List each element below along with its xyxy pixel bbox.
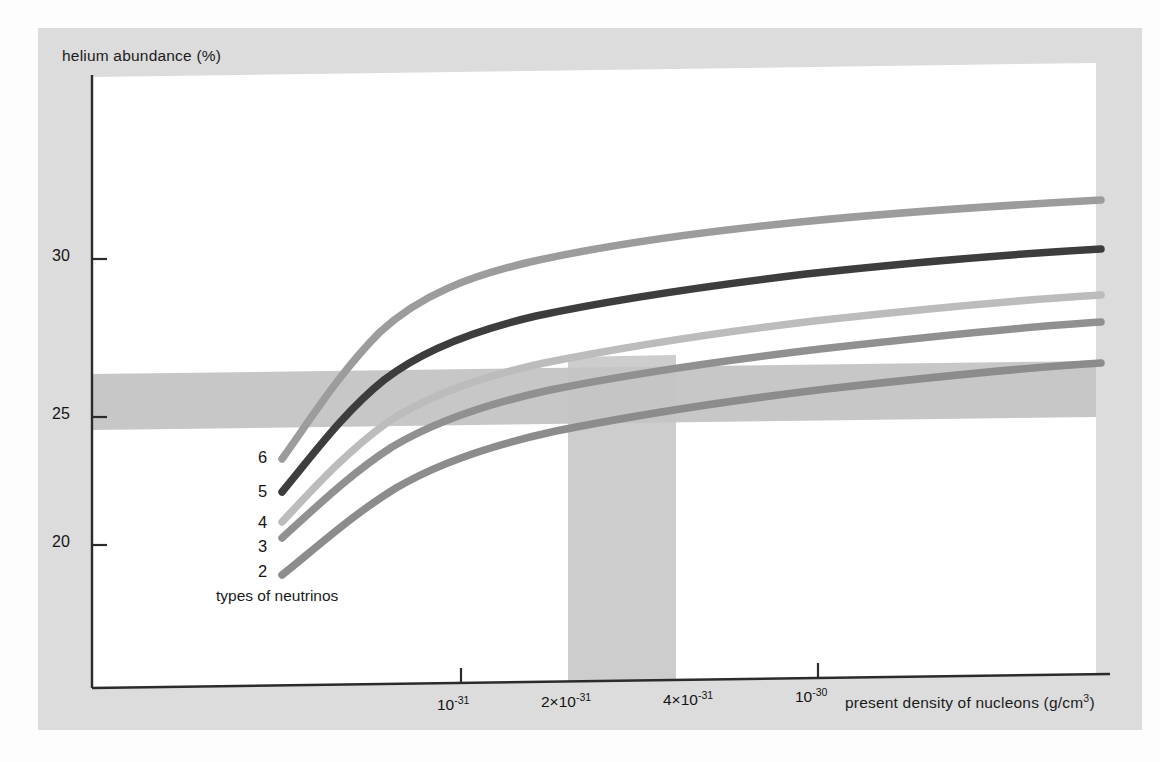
x-tick-label-1e-31: 10-31	[437, 694, 469, 714]
y-tick-label-30: 30	[52, 247, 70, 265]
curve-label-2: 2	[258, 562, 267, 581]
x-tick-mantissa: 4×10	[663, 691, 698, 708]
x-tick-mantissa: 10	[795, 688, 812, 705]
figure-page: helium abundance (%) present density of …	[0, 0, 1160, 762]
curve-label-6: 6	[258, 448, 267, 467]
chart-canvas	[0, 0, 1160, 762]
y-tick-label-20: 20	[52, 533, 70, 551]
x-tick-label-2e-31: 2×10-31	[541, 691, 591, 711]
y-tick-label-25: 25	[52, 405, 70, 423]
x-tick-exponent: -31	[698, 689, 713, 701]
x-axis-label-tail: )	[1089, 694, 1094, 711]
legend-caption: types of neutrinos	[216, 587, 338, 605]
x-tick-exponent: -30	[812, 686, 827, 698]
x-tick-label-4e-31: 4×10-31	[663, 689, 713, 709]
x-axis-label: present density of nucleons (g/cm3)	[845, 692, 1095, 712]
curve-label-5: 5	[258, 482, 267, 501]
x-axis-label-main: present density of nucleons (g/cm	[845, 694, 1083, 711]
x-tick-exponent: -31	[576, 691, 591, 703]
x-tick-label-1e-30: 10-30	[795, 686, 827, 706]
x-tick-mantissa: 10	[437, 696, 454, 713]
x-tick-exponent: -31	[454, 694, 469, 706]
curve-label-3: 3	[258, 537, 267, 556]
x-tick-mantissa: 2×10	[541, 693, 576, 710]
curve-label-4: 4	[258, 513, 267, 532]
y-axis-label: helium abundance (%)	[62, 47, 221, 65]
